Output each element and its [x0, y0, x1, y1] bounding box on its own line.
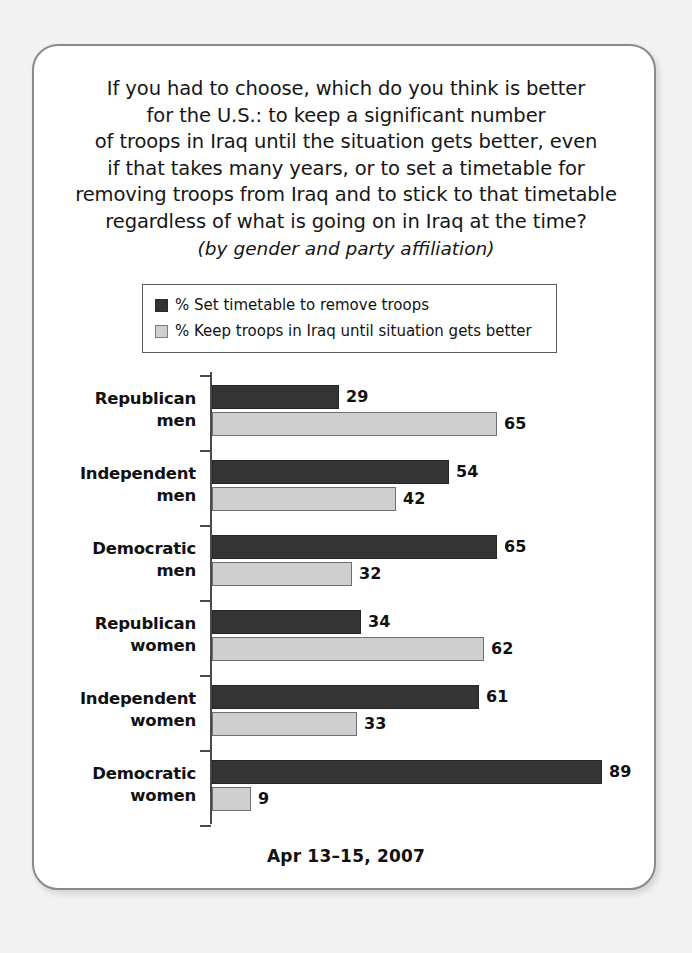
bar-value-label: 29	[346, 387, 368, 407]
legend-swatch-light-icon	[155, 325, 168, 338]
title-line-1: If you had to choose, which do you think…	[50, 76, 642, 103]
bar[interactable]	[212, 787, 251, 811]
legend-label-keep-troops: % Keep troops in Iraq until situation ge…	[175, 323, 532, 340]
category-label: Republicanmen	[34, 388, 196, 432]
bar-row: 9	[212, 787, 652, 811]
bar[interactable]	[212, 487, 396, 511]
bar-value-label: 42	[403, 489, 425, 509]
bar[interactable]	[212, 637, 484, 661]
category-label-line: Republican	[34, 388, 196, 410]
category-label-line: men	[34, 485, 196, 507]
bar-row: 65	[212, 535, 652, 559]
bar-value-label: 9	[258, 789, 269, 809]
bar-group: Independentmen5442	[34, 450, 654, 525]
category-label: Independentmen	[34, 463, 196, 507]
category-label: Independentwomen	[34, 688, 196, 732]
chart-footer-date: Apr 13–15, 2007	[50, 846, 642, 866]
bar-row: 33	[212, 712, 652, 736]
bar-value-label: 32	[359, 564, 381, 584]
title-line-4: if that takes many years, or to set a ti…	[50, 156, 642, 183]
bar-row: 89	[212, 760, 652, 784]
category-label-line: Democratic	[34, 763, 196, 785]
category-label: Democraticmen	[34, 538, 196, 582]
bar[interactable]	[212, 685, 479, 709]
bar-value-label: 33	[364, 714, 386, 734]
bar-value-label: 61	[486, 687, 508, 707]
chart-subtitle: (by gender and party affiliation)	[50, 235, 642, 262]
title-line-3: of troops in Iraq until the situation ge…	[50, 129, 642, 156]
category-label: Democraticwomen	[34, 763, 196, 807]
bar-value-label: 65	[504, 537, 526, 557]
legend-item-keep-troops: % Keep troops in Iraq until situation ge…	[155, 320, 544, 342]
chart-card: If you had to choose, which do you think…	[32, 44, 656, 890]
category-label-line: Independent	[34, 463, 196, 485]
legend-swatch-dark-icon	[155, 299, 168, 312]
axis-tick	[200, 825, 211, 827]
bar-chart-plot: Republicanmen2965Independentmen5442Democ…	[34, 370, 654, 830]
legend-label-set-timetable: % Set timetable to remove troops	[175, 297, 429, 314]
bar-value-label: 65	[504, 414, 526, 434]
bar[interactable]	[212, 562, 352, 586]
bar-group: Republicanwomen3462	[34, 600, 654, 675]
bar-group: Independentwomen6133	[34, 675, 654, 750]
bar[interactable]	[212, 712, 357, 736]
category-label: Republicanwomen	[34, 613, 196, 657]
title-line-6: regardless of what is going on in Iraq a…	[50, 209, 642, 236]
category-label-line: women	[34, 710, 196, 732]
bar[interactable]	[212, 460, 449, 484]
bar-group: Democraticmen6532	[34, 525, 654, 600]
category-label-line: women	[34, 635, 196, 657]
chart-title-block: If you had to choose, which do you think…	[50, 76, 642, 262]
bar-group: Republicanmen2965	[34, 375, 654, 450]
category-label-line: women	[34, 785, 196, 807]
title-line-5: removing troops from Iraq and to stick t…	[50, 182, 642, 209]
bar-value-label: 62	[491, 639, 513, 659]
bar-group: Democraticwomen899	[34, 750, 654, 825]
title-line-2: for the U.S.: to keep a significant numb…	[50, 103, 642, 130]
category-label-line: Republican	[34, 613, 196, 635]
bar-value-label: 54	[456, 462, 478, 482]
category-label-line: Independent	[34, 688, 196, 710]
bar[interactable]	[212, 760, 602, 784]
bar-value-label: 34	[368, 612, 390, 632]
bar-row: 32	[212, 562, 652, 586]
bar-row: 34	[212, 610, 652, 634]
bar-row: 62	[212, 637, 652, 661]
bar-row: 29	[212, 385, 652, 409]
category-label-line: men	[34, 410, 196, 432]
bar[interactable]	[212, 535, 497, 559]
legend-item-set-timetable: % Set timetable to remove troops	[155, 294, 544, 316]
bar-row: 54	[212, 460, 652, 484]
category-label-line: men	[34, 560, 196, 582]
bar-row: 42	[212, 487, 652, 511]
chart-legend: % Set timetable to remove troops % Keep …	[142, 284, 557, 353]
bar-row: 65	[212, 412, 652, 436]
bar[interactable]	[212, 610, 361, 634]
bar[interactable]	[212, 412, 497, 436]
bar[interactable]	[212, 385, 339, 409]
bar-row: 61	[212, 685, 652, 709]
bar-value-label: 89	[609, 762, 631, 782]
category-label-line: Democratic	[34, 538, 196, 560]
